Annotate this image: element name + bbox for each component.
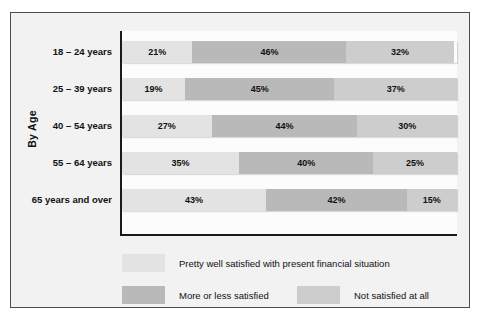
legend-row: More or less satisfiedNot satisfied at a… [11,285,471,305]
bar-category-label: 18 – 24 years [11,41,112,63]
legend-swatch-icon [297,286,340,304]
legend-item-label: Not satisfied at all [354,290,429,301]
bar-category-label: 40 – 54 years [11,115,112,137]
bar-row: 40 – 54 years27%44%30% [11,115,471,137]
bar-row: 25 – 39 years19%45%37% [11,78,471,100]
bar-segment-a: 35% [122,152,239,174]
legend-item[interactable]: Pretty well satisfied with present finan… [122,253,390,273]
legend-item-label: More or less satisfied [179,290,269,301]
bar-segment-a: 43% [122,189,266,211]
bar-segment-b: 46% [192,41,346,63]
bar-track: 19%45%37% [122,78,457,100]
legend-row: Pretty well satisfied with present finan… [11,253,471,273]
bar-row: 65 years and over43%42%15% [11,189,471,211]
bar-segment-c: 32% [346,41,453,63]
bar-segment-b: 42% [266,189,407,211]
chart-figure: By Age 18 – 24 years21%46%32%25 – 39 yea… [10,12,470,308]
bar-segment-c: 25% [373,152,457,174]
bar-track: 21%46%32% [122,41,457,63]
bar-category-label: 25 – 39 years [11,78,112,100]
bar-segment-a: 21% [122,41,192,63]
bar-segment-b: 44% [212,115,358,137]
bar-segment-a: 19% [122,78,185,100]
bar-segment-b: 40% [239,152,373,174]
x-axis-line [120,234,457,236]
bar-segment-a: 27% [122,115,212,137]
legend-item-label: Pretty well satisfied with present finan… [179,258,390,269]
bar-row: 18 – 24 years21%46%32% [11,41,471,63]
legend-swatch-icon [122,254,165,272]
bar-row: 55 – 64 years35%40%25% [11,152,471,174]
bar-segment-c: 15% [407,189,457,211]
bar-track: 27%44%30% [122,115,457,137]
bar-track: 43%42%15% [122,189,457,211]
bar-track: 35%40%25% [122,152,457,174]
legend-item[interactable]: Not satisfied at all [297,285,429,305]
bar-category-label: 65 years and over [11,189,112,211]
bar-segment-c: 30% [357,115,457,137]
legend-swatch-icon [122,286,165,304]
bar-segment-b: 45% [185,78,334,100]
bar-segment-c: 37% [334,78,457,100]
bar-category-label: 55 – 64 years [11,152,112,174]
legend-item[interactable]: More or less satisfied [122,285,269,305]
chart-legend: Pretty well satisfied with present finan… [11,245,471,307]
